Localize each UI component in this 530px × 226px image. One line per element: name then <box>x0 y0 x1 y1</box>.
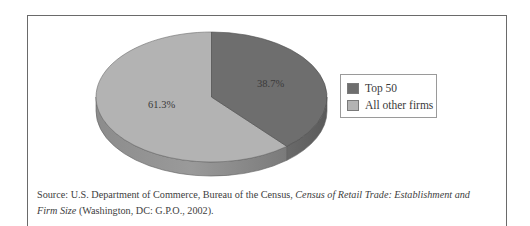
legend-label: Top 50 <box>365 82 397 94</box>
legend-swatch-dark <box>347 83 359 94</box>
legend-item-all-other-firms[interactable]: All other firms <box>347 99 433 111</box>
chart-legend: Top 50 All other firms <box>340 74 437 118</box>
source-note: Source: U.S. Department of Commerce, Bur… <box>37 187 502 218</box>
legend-label: All other firms <box>365 99 433 111</box>
source-prefix: Source: U.S. Department of Commerce, Bur… <box>37 189 295 200</box>
legend-swatch-light <box>347 100 359 111</box>
legend-item-top-50[interactable]: Top 50 <box>347 82 397 94</box>
slice-label-all-other-firms: 61.3% <box>148 99 175 110</box>
source-title-line1: Census of Retail Trade: Establishment an… <box>295 189 470 200</box>
source-suffix: (Washington, DC: G.P.O., 2002). <box>76 205 213 216</box>
slice-label-top-50: 38.7% <box>257 78 284 89</box>
source-title-line2: Firm Size <box>37 205 76 216</box>
